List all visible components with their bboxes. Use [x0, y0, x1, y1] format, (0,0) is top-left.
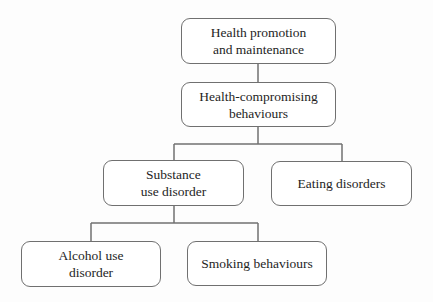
diagram-canvas: Health promotion and maintenance Health-… [0, 0, 433, 302]
node-label: Smoking behaviours [201, 255, 312, 272]
node-substance-use-disorder: Substance use disorder [103, 160, 244, 206]
node-alcohol-use-disorder: Alcohol use disorder [21, 241, 161, 287]
node-label: Alcohol use disorder [59, 247, 124, 281]
node-label: Substance use disorder [141, 166, 207, 200]
node-label: Eating disorders [297, 175, 385, 192]
node-eating-disorders: Eating disorders [271, 161, 412, 206]
node-health-promotion: Health promotion and maintenance [181, 18, 336, 64]
node-health-compromising-behaviours: Health-compromising behaviours [181, 82, 336, 127]
node-label: Health promotion and maintenance [211, 24, 307, 58]
node-label: Health-compromising behaviours [199, 88, 317, 122]
node-smoking-behaviours: Smoking behaviours [187, 241, 327, 286]
